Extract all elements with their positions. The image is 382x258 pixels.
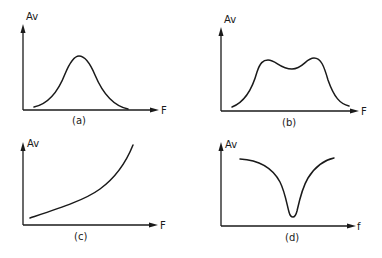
panel-d: Av f (d)	[219, 139, 362, 243]
y-axis-arrow-icon	[21, 142, 26, 151]
panel-caption: (d)	[285, 232, 299, 243]
x-axis-label: F	[160, 220, 166, 231]
y-axis-arrow-icon	[21, 24, 26, 33]
x-axis-arrow-icon	[149, 223, 158, 228]
x-axis-arrow-icon	[350, 109, 359, 114]
panel-c: Av F (c)	[21, 138, 167, 242]
x-axis-label: f	[357, 221, 361, 232]
y-axis-label: Av	[225, 139, 237, 150]
panel-b: Av F (b)	[219, 14, 368, 128]
panel-caption: (a)	[72, 115, 86, 126]
x-axis-arrow-icon	[150, 108, 159, 113]
response-curve	[30, 145, 133, 218]
panel-caption: (b)	[282, 117, 296, 128]
response-curve	[240, 158, 334, 217]
response-curve	[232, 58, 349, 107]
y-axis-label: Av	[26, 11, 38, 22]
panel-caption: (c)	[74, 231, 87, 242]
y-axis-label: Av	[27, 138, 39, 149]
y-axis-arrow-icon	[219, 27, 224, 36]
x-axis-label: F	[161, 105, 167, 116]
x-axis-arrow-icon	[347, 224, 356, 229]
y-axis-arrow-icon	[219, 142, 224, 151]
y-axis-label: Av	[224, 14, 236, 25]
panel-a: Av F (a)	[21, 11, 168, 126]
x-axis-label: F	[361, 106, 367, 117]
response-curve	[34, 56, 128, 109]
frequency-response-diagram: Av F (a) Av F (b) Av F (c) Av f (d)	[0, 0, 382, 258]
